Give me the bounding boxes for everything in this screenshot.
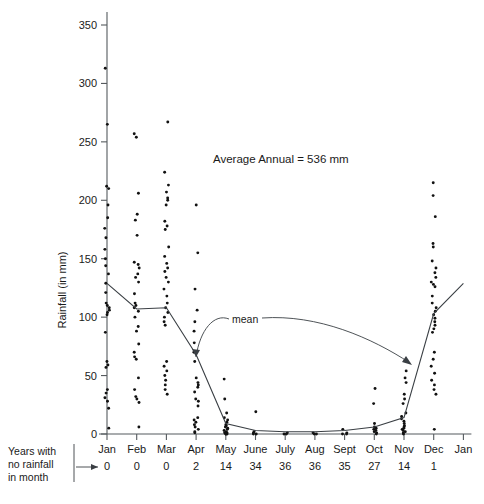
data-point [197,428,200,431]
data-point [315,433,318,436]
data-point [166,121,169,124]
data-point [254,410,257,413]
data-point [106,313,109,316]
data-point [432,242,435,245]
data-point [433,372,436,375]
years-no-rainfall-mar: 0 [163,460,169,472]
data-point [135,136,138,139]
data-point [133,316,136,319]
data-point [374,387,377,390]
data-point [433,428,436,431]
data-point [163,220,166,223]
data-point [194,288,197,291]
data-point [431,260,434,263]
annotations-layer: Average Annual = 536 mmmean [192,153,412,365]
data-point [193,341,196,344]
data-point [431,302,434,305]
data-point [194,426,197,429]
data-point [433,388,436,391]
data-point [164,383,167,386]
data-point [107,407,110,410]
data-point [163,374,166,377]
data-point [106,400,109,403]
data-point [433,320,436,323]
footer-label-line-2: in month [8,471,48,483]
data-point [104,331,107,334]
mean-annotation-label: mean [232,313,258,325]
data-point [164,379,167,382]
data-point [134,219,137,222]
data-point [104,282,107,285]
y-tick-label-200: 200 [79,194,97,206]
years-no-rainfall-nov: 14 [398,460,410,472]
data-point [430,379,433,382]
data-point [434,324,437,327]
data-point [106,388,109,391]
data-point [134,276,137,279]
data-point [164,388,167,391]
footer-label-line-0: Years with [8,445,56,457]
data-point [138,401,141,404]
mean-leader-right [262,318,410,363]
data-point [405,381,408,384]
data-point [105,366,108,369]
data-point [137,281,140,284]
data-point [165,360,168,363]
data-point [133,261,136,264]
data-point [405,369,408,372]
data-point [433,271,436,274]
data-point [433,351,436,354]
x-axis-month-label-jan-12: Jan [455,443,473,455]
data-point [432,283,435,286]
y-tick-label-50: 50 [85,370,97,382]
data-point [137,376,140,379]
x-axis-month-label-aug-7: Aug [305,443,325,455]
data-point [223,378,226,381]
data-point [136,272,139,275]
data-point [103,248,106,251]
data-point [197,405,200,408]
data-point [103,227,106,230]
data-point [255,433,258,436]
mean-leader-left [196,318,229,357]
data-point [163,320,166,323]
data-point [167,281,170,284]
points-group-may [223,378,230,436]
data-point [104,264,107,267]
x-axis-month-label-june-5: June [244,443,268,455]
years-no-rainfall-apr: 2 [193,460,199,472]
data-point [402,402,405,405]
years-no-rainfall-may: 14 [220,460,232,472]
years-no-rainfall-aug: 36 [309,460,321,472]
data-point [107,187,110,190]
x-axis-month-label-oct-9: Oct [366,443,383,455]
data-point [225,433,228,436]
data-point [106,304,109,307]
data-point [194,397,197,400]
y-tick-label-150: 150 [79,253,97,265]
data-point [402,433,405,436]
rainfall-scatter-chart: 050100150200250300350Rainfall (in mm)Jan… [0,0,484,504]
years-no-rainfall-oct: 27 [368,460,380,472]
data-point [430,281,433,284]
points-group-feb [133,132,141,428]
data-point [137,325,140,328]
points-group-dec [430,181,438,430]
data-point [133,388,136,391]
data-point [165,262,168,265]
data-point [166,267,169,270]
years-no-rainfall-june: 34 [249,460,261,472]
years-no-rainfall-feb: 0 [134,460,140,472]
mean-line-layer [107,283,463,431]
data-point [165,369,168,372]
data-point [137,192,140,195]
y-tick-label-0: 0 [91,428,97,440]
data-point [431,295,434,298]
data-point [135,330,138,333]
data-point [435,393,438,396]
data-point [106,364,109,367]
data-point [107,427,110,430]
data-point [166,302,169,305]
data-point [137,426,140,429]
data-point [195,204,198,207]
